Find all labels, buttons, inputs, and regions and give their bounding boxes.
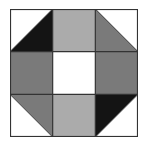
quilt-block-diagram — [10, 9, 138, 137]
cell-r1-c2 — [95, 52, 138, 95]
cell-r2-c1 — [53, 94, 96, 137]
cell-r0-c1 — [53, 9, 96, 52]
cell-r1-c0 — [10, 52, 53, 95]
quilt-block-svg — [10, 9, 138, 137]
cell-r1-c1 — [53, 52, 96, 95]
